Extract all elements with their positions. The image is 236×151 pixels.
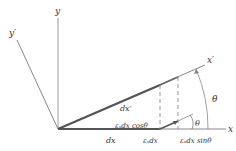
small-rotated-axis <box>178 114 193 121</box>
eps-dx-sin-label: εₓdx sinθ <box>180 137 212 145</box>
dx-label: dx <box>106 136 116 145</box>
theta-large-label: θ <box>212 94 218 104</box>
theta-small-label: θ <box>195 119 200 128</box>
eps-dx-cos-label: εₓdx cosθ <box>115 122 149 130</box>
y-prime-axis <box>17 40 58 129</box>
x-axis-label: x <box>228 124 233 134</box>
y-prime-axis-label: y′ <box>8 28 16 38</box>
deformation-segment <box>160 77 178 85</box>
x-prime-axis-label: x′ <box>207 55 214 65</box>
strain-transformation-diagram: y y′ x x′ θ dx′ dx εₓdx cosθ εₓdx εₓdx s… <box>0 0 236 151</box>
small-theta-arc-icon <box>190 115 193 129</box>
y-axis-label: y <box>54 6 61 16</box>
eps-dx-label: εₓdx <box>143 137 158 145</box>
dx-prime-label: dx′ <box>120 104 132 113</box>
